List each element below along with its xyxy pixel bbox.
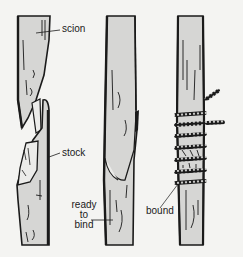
grafting-drawing	[0, 0, 243, 257]
ready-to-bind-label: ready to bind	[68, 200, 100, 230]
grafting-illustration: scion stock ready to bind bound	[0, 0, 243, 257]
stock-label: stock	[62, 148, 85, 158]
panel-separated	[17, 16, 60, 245]
ready-to-bind-line3: bind	[68, 220, 100, 230]
stock-leader-line	[49, 153, 60, 157]
scion-label: scion	[62, 24, 85, 34]
bound-label: bound	[146, 206, 174, 216]
